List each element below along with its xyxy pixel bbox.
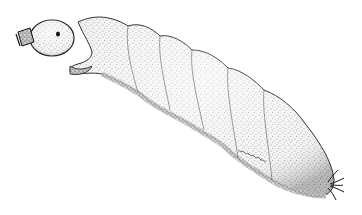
larva-illustration: [0, 0, 362, 215]
larva-body: [70, 17, 334, 196]
head-capsule: [30, 20, 74, 56]
eye-spot: [56, 32, 60, 37]
